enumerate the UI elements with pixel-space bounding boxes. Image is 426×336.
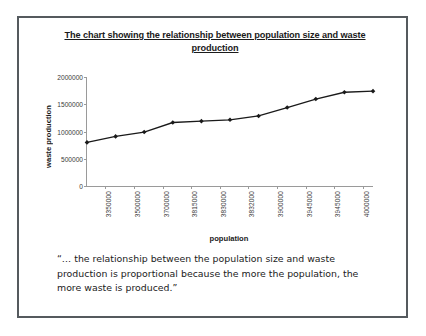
x-tick-label: 3832000 — [248, 191, 255, 217]
x-tick-label: 3700000 — [162, 191, 169, 217]
data-point-marker — [85, 140, 90, 145]
x-tick-label: 3830000 — [219, 191, 226, 217]
x-tick-label: 4000000 — [362, 191, 369, 217]
data-point-marker — [342, 90, 347, 95]
data-series-line — [87, 77, 373, 186]
y-tick-mark — [84, 159, 87, 160]
x-tick-label: 3815000 — [191, 191, 198, 217]
y-tick-label: 2000000 — [57, 74, 87, 81]
x-tick-mark — [105, 186, 106, 189]
caption-text: “… the relationship between the populati… — [57, 252, 377, 296]
data-point-marker — [371, 89, 376, 94]
y-axis-title: waste production — [44, 97, 56, 177]
x-axis-title: population — [86, 234, 372, 243]
y-tick-mark — [84, 186, 87, 187]
x-tick-label: 3350000 — [105, 191, 112, 217]
x-tick-label: 3500000 — [133, 191, 140, 217]
data-point-marker — [199, 119, 204, 124]
x-tick-mark — [191, 186, 192, 189]
plot-area: 0500000100000015000002000000335000035000… — [86, 77, 373, 187]
x-tick-mark — [363, 186, 364, 189]
x-tick-mark — [277, 186, 278, 189]
series-polyline — [87, 91, 373, 142]
data-point-marker — [171, 120, 176, 125]
x-tick-mark — [248, 186, 249, 189]
screenshot-page: The chart showing the relationship betwe… — [0, 0, 426, 336]
y-tick-label: 1500000 — [57, 101, 87, 108]
x-tick-mark — [306, 186, 307, 189]
x-tick-label: 3945000 — [305, 191, 312, 217]
x-tick-label: 3900000 — [276, 191, 283, 217]
y-tick-mark — [84, 77, 87, 78]
y-tick-label: 1000000 — [57, 128, 87, 135]
data-point-marker — [228, 117, 233, 122]
x-tick-mark — [220, 186, 221, 189]
x-tick-mark — [134, 186, 135, 189]
data-point-marker — [285, 105, 290, 110]
y-tick-mark — [84, 132, 87, 133]
data-point-marker — [113, 134, 118, 139]
x-tick-label: 3945000 — [334, 191, 341, 217]
x-tick-mark — [334, 186, 335, 189]
data-point-marker — [314, 97, 319, 102]
data-point-marker — [256, 114, 261, 119]
data-point-marker — [142, 130, 147, 135]
x-tick-mark — [163, 186, 164, 189]
y-tick-mark — [84, 104, 87, 105]
